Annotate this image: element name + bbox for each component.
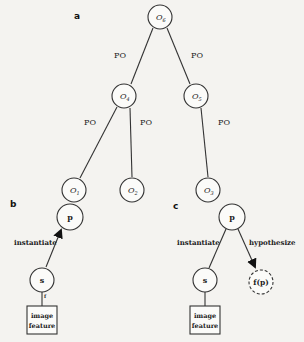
hypothesize-label: hypothesize <box>249 238 296 247</box>
panel-b-label: b <box>10 199 17 209</box>
node-o5: O5 <box>184 84 208 108</box>
edge-o6-o5 <box>167 28 190 84</box>
hypothesize-arrow <box>238 229 255 267</box>
svg-text:p: p <box>67 212 73 222</box>
instantiate-label: instantiate <box>177 238 220 247</box>
edge-label-po: PO <box>140 118 152 127</box>
instantiate-edge <box>209 229 226 268</box>
panel-c-label: c <box>173 201 178 211</box>
node-o6: O6 <box>148 5 172 29</box>
node-o4: O4 <box>112 84 136 108</box>
svg-text:image: image <box>31 312 53 320</box>
instantiate-label: instantiate <box>14 238 57 247</box>
panel-a-label: a <box>74 11 80 21</box>
edge-label-po: PO <box>114 51 126 60</box>
edge-label-po: PO <box>218 118 230 127</box>
svg-text:feature: feature <box>29 322 55 330</box>
svg-text:f(p): f(p) <box>253 278 269 287</box>
edge-label-po: PO <box>191 51 203 60</box>
diagram-canvas: a PO PO PO PO PO O6 O4 O5 O1 <box>0 0 304 342</box>
edge-o4-o2 <box>130 108 132 177</box>
svg-text:feature: feature <box>192 322 218 330</box>
node-o2: O2 <box>120 178 144 202</box>
node-s: s <box>193 268 217 292</box>
node-s: s <box>30 268 54 292</box>
feature-mark: f <box>44 293 47 299</box>
node-p: p <box>219 204 245 230</box>
instantiate-arrow <box>46 230 61 267</box>
image-feature-box: image feature <box>190 306 220 334</box>
svg-text:p: p <box>229 212 235 222</box>
edge-o5-o3 <box>201 108 208 177</box>
node-p: p <box>57 204 83 230</box>
node-o1: O1 <box>62 178 86 202</box>
node-o3: O3 <box>196 178 220 202</box>
panel-b: b instantiate p s f image feature <box>10 199 83 334</box>
panel-c: c instantiate hypothesize p s f(p) image… <box>173 201 296 334</box>
svg-text:s: s <box>40 275 45 285</box>
panel-a: a PO PO PO PO PO O6 O4 O5 O1 <box>62 5 230 202</box>
edge-o6-o4 <box>131 28 153 84</box>
svg-text:image: image <box>194 312 216 320</box>
svg-text:s: s <box>203 275 208 285</box>
hypothesis-node-fp: f(p) <box>249 270 273 294</box>
edge-label-po: PO <box>84 118 96 127</box>
image-feature-box: image feature <box>27 306 57 334</box>
